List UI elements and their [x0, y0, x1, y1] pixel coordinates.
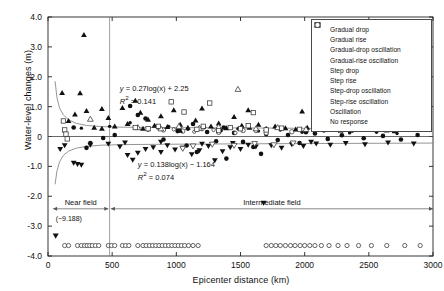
data-point [172, 128, 175, 131]
data-point [278, 243, 282, 247]
data-point [308, 243, 312, 247]
y-tick-label: -1.0 [16, 161, 42, 171]
data-point [290, 130, 294, 134]
figure-scatter-water-level: Water-level changes (m) Epicenter distan… [0, 0, 444, 291]
legend-item-label: Gradual-drop oscillation [330, 46, 401, 53]
data-point [158, 113, 164, 118]
data-point [212, 128, 215, 131]
data-point [238, 147, 244, 152]
data-point [381, 134, 386, 139]
data-point [231, 114, 237, 119]
data-point [72, 111, 78, 116]
series-no-response [63, 243, 423, 247]
data-point [143, 147, 149, 152]
data-point [286, 133, 291, 138]
legend-item-label: Gradual drop [330, 26, 369, 33]
lower-fit-r2: R2 = 0.074 [138, 170, 215, 183]
data-point [279, 146, 285, 151]
data-point [191, 243, 195, 247]
field-span-intermediate-field [111, 207, 433, 211]
legend-item-gradual-drop: Gradual drop [317, 24, 428, 34]
data-point [66, 243, 70, 247]
x-tick-label: 500 [92, 260, 132, 270]
data-point [356, 243, 360, 247]
data-point [288, 243, 292, 247]
intermediate-field-label: Intermediate field [111, 198, 433, 207]
data-point [130, 158, 136, 163]
data-point [78, 163, 84, 168]
data-point [228, 125, 232, 129]
y-tick-label: 2.0 [16, 72, 42, 82]
data-point [195, 127, 199, 131]
data-point [113, 243, 117, 247]
near-field-label: Near field [53, 198, 108, 207]
data-point [201, 124, 205, 128]
data-point [216, 128, 220, 132]
y-tick-label: -2.0 [16, 191, 42, 201]
upper-fit-equation: y = 0.27log(x) + 2.25 [120, 84, 189, 94]
data-point [208, 101, 212, 105]
y-tick-label: 3.0 [16, 42, 42, 52]
data-point [61, 119, 65, 123]
x-tick-label: 1000 [156, 260, 196, 270]
open-circle-glyph [315, 23, 320, 28]
data-point [362, 142, 368, 147]
data-point [112, 133, 117, 138]
data-point [186, 243, 190, 247]
data-point [303, 243, 307, 247]
data-point [340, 133, 345, 138]
data-point [189, 152, 195, 157]
data-point [64, 132, 68, 136]
data-point [251, 110, 255, 114]
data-point [112, 123, 118, 128]
legend-item-label: Step drop [330, 67, 359, 74]
legend-item-label: No response [330, 118, 368, 125]
data-point [336, 243, 340, 247]
data-point [345, 243, 349, 247]
data-point [208, 123, 214, 128]
legend-item-step-drop: Step drop [317, 65, 428, 75]
data-point [241, 140, 246, 145]
data-point [246, 124, 250, 128]
legend-item-step-rise: Step rise [317, 75, 428, 85]
data-point [101, 136, 106, 141]
data-point [62, 128, 66, 132]
data-point [361, 136, 366, 141]
data-point [293, 243, 297, 247]
legend-item-label: Step-drop oscillation [330, 87, 391, 94]
data-point [283, 243, 287, 247]
data-point [411, 142, 417, 147]
legend-item-gradual-rise-oscillation: Gradual-rise oscillation [317, 55, 428, 65]
data-point [57, 147, 63, 152]
data-point [105, 115, 111, 120]
data-point [327, 143, 333, 148]
data-point [245, 143, 251, 148]
data-point [256, 122, 262, 127]
y-tick-label: 4.0 [16, 12, 42, 22]
outlier-value-label: (−9.188) [56, 215, 82, 222]
data-point [385, 243, 389, 247]
data-point [140, 126, 146, 131]
lower-fit-annotation: y = 0.138log(x) − 1.164R2 = 0.074 [138, 160, 215, 183]
data-point [59, 90, 65, 95]
data-point [308, 140, 314, 145]
fit-curve-lower-envelope [55, 143, 433, 184]
data-point [125, 153, 131, 158]
legend-item-no-response: No response [317, 117, 428, 127]
data-point [313, 243, 317, 247]
data-point [196, 243, 200, 247]
data-point [235, 86, 241, 91]
data-point [80, 126, 83, 129]
data-point [105, 142, 111, 147]
data-point [238, 127, 242, 131]
data-point [193, 117, 199, 122]
data-point [279, 126, 283, 130]
data-point [205, 130, 210, 135]
x-tick-label: 2500 [349, 260, 389, 270]
data-point [269, 243, 273, 247]
data-point [299, 109, 305, 114]
x-tick-label: 2000 [285, 260, 325, 270]
data-point [182, 110, 186, 114]
data-point [399, 137, 404, 142]
data-point [133, 125, 137, 129]
